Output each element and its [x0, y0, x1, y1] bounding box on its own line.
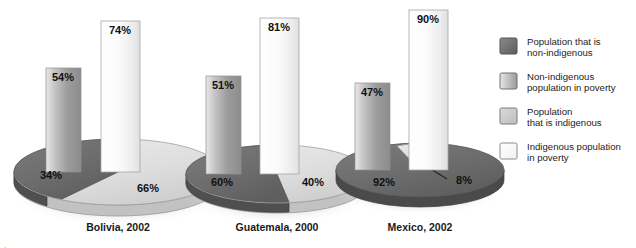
bar-value-indigenous-poverty: 74% [109, 24, 131, 36]
legend-swatch-icon [500, 143, 517, 159]
bar-value-nonindigenous-poverty: 51% [212, 79, 234, 91]
pie-value-nonindigenous: 60% [211, 176, 233, 188]
legend-swatch-icon [500, 108, 517, 124]
legend-item-nonindigenous-poverty: Non-indigenous population in poverty [500, 71, 616, 93]
chart-root: 54% 74% 34% 66% Bolivia, 2002 51% 81% 60… [0, 0, 636, 248]
bar-value-nonindigenous-poverty: 54% [52, 71, 74, 83]
legend-label-line2: that is indigenous [527, 117, 602, 128]
legend-swatch-icon [500, 38, 517, 54]
group-label-bolivia: Bolivia, 2002 [86, 221, 150, 233]
group-label-guatemala: Guatemala, 2000 [236, 221, 319, 233]
pie-value-indigenous: 66% [137, 182, 159, 194]
clipped-footer-text: . [4, 240, 324, 248]
bar-nonindigenous-poverty [46, 68, 81, 172]
pie-value-indigenous: 8% [456, 174, 472, 186]
legend-label-line1: Indigenous population [527, 141, 621, 152]
legend: Population that is non-indigenous Non-in… [500, 36, 621, 163]
legend-item-nonindigenous-population: Population that is non-indigenous [500, 36, 601, 58]
legend-swatch-icon [500, 73, 517, 89]
legend-label-line1: Population that is [527, 36, 601, 47]
legend-label-line1: Non-indigenous [527, 71, 594, 82]
legend-label-line2: non-indigenous [527, 47, 593, 58]
indigenous-poverty-chart: 54% 74% 34% 66% Bolivia, 2002 51% 81% 60… [0, 0, 636, 248]
bar-value-nonindigenous-poverty: 47% [361, 86, 383, 98]
bar-value-indigenous-poverty: 81% [268, 21, 290, 33]
bar-indigenous-poverty [260, 18, 299, 174]
group-label-mexico: Mexico, 2002 [388, 221, 453, 233]
pie-value-indigenous: 40% [302, 176, 324, 188]
legend-label-line2: population in poverty [527, 82, 616, 93]
bar-indigenous-poverty [409, 10, 448, 170]
bar-indigenous-poverty [101, 21, 140, 172]
group-mexico: 47% 90% 92% 8% Mexico, 2002 [334, 10, 506, 233]
pie-value-nonindigenous: 34% [40, 169, 62, 181]
legend-item-indigenous-poverty: Indigenous population in poverty [500, 141, 621, 163]
bar-value-indigenous-poverty: 90% [417, 13, 439, 25]
pie-value-nonindigenous: 92% [373, 176, 395, 188]
legend-label-line1: Population [527, 106, 572, 117]
legend-label-line2: in poverty [527, 152, 569, 163]
legend-item-indigenous-population: Population that is indigenous [500, 106, 602, 128]
